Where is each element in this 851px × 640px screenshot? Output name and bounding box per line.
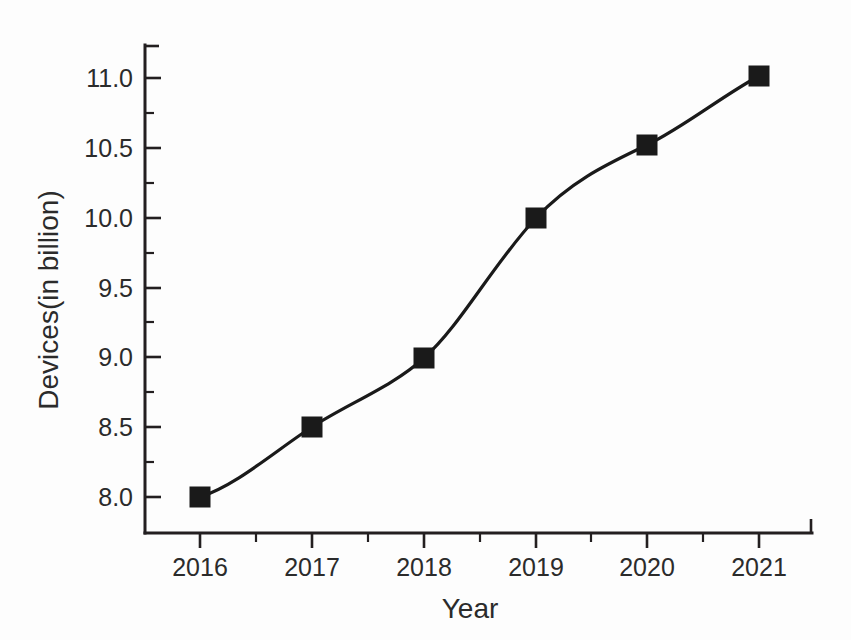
y-axis-title: Devices(in billion): [33, 190, 64, 409]
x-tick-label: 2018: [396, 553, 452, 581]
x-tick-label: 2016: [172, 553, 228, 581]
axes-group: [145, 45, 812, 533]
y-tick-label: 9.0: [98, 343, 133, 371]
series-markers: [190, 66, 769, 507]
chart-container: 11.0 10.5 10.0 9.5 9.0 8.5 8.0 2016 2017…: [0, 0, 851, 640]
y-tick-label: 9.5: [98, 274, 133, 302]
x-tick-label: 2020: [619, 553, 675, 581]
x-tick-label: 2017: [284, 553, 340, 581]
y-tick-label: 8.0: [98, 483, 133, 511]
y-tick-labels: 11.0 10.5 10.0 9.5 9.0 8.5 8.0: [84, 64, 133, 511]
x-tick-labels: 2016 2017 2018 2019 2020 2021: [172, 553, 787, 581]
y-tick-label: 11.0: [86, 64, 133, 92]
data-point-2016: [190, 487, 210, 507]
y-tick-label: 10.0: [84, 204, 133, 232]
data-point-2020: [637, 135, 657, 155]
x-tick-label: 2021: [731, 553, 787, 581]
series-line-devices: [200, 76, 759, 497]
y-tick-label: 10.5: [84, 134, 133, 162]
data-point-2018: [414, 348, 434, 368]
line-chart: 11.0 10.5 10.0 9.5 9.0 8.5 8.0 2016 2017…: [0, 0, 851, 640]
data-point-2021: [749, 66, 769, 86]
x-axis-title: Year: [442, 593, 499, 624]
data-point-2019: [526, 208, 546, 228]
y-tick-label: 8.5: [98, 413, 133, 441]
x-tick-label: 2019: [508, 553, 564, 581]
data-point-2017: [302, 417, 322, 437]
y-major-ticks: [145, 78, 161, 497]
